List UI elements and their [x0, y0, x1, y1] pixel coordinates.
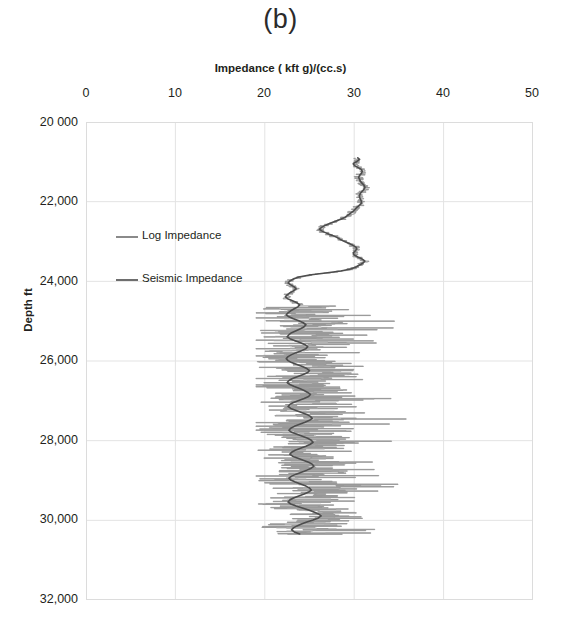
x-axis-title: Impedance ( kft g)/(cc.s) [0, 62, 561, 74]
series-log-impedance [256, 158, 406, 534]
y-axis-title: Depth ft [22, 288, 34, 331]
legend-label-seismic: Seismic Impedance [142, 271, 262, 285]
legend-swatch-seismic [116, 279, 138, 281]
plot-area [86, 122, 533, 600]
legend-label-log: Log Impedance [142, 228, 262, 242]
x-tick-10: 10 [145, 86, 205, 100]
x-tick-50: 50 [502, 86, 561, 100]
legend-swatch-log [116, 236, 138, 238]
y-tick-30000: 30,000 [18, 512, 78, 526]
y-tick-26000: 26,000 [18, 353, 78, 367]
chart-canvas [86, 122, 533, 600]
x-tick-30: 30 [324, 86, 384, 100]
x-tick-40: 40 [413, 86, 473, 100]
impedance-depth-chart: (b) Impedance ( kft g)/(cc.s) Depth ft 0… [0, 0, 561, 626]
page-title: (b) [0, 4, 561, 35]
y-tick-20000: 20 000 [18, 115, 78, 129]
y-tick-28000: 28,000 [18, 433, 78, 447]
x-tick-0: 0 [56, 86, 116, 100]
y-tick-32000: 32,000 [18, 592, 78, 606]
y-tick-22000: 22,000 [18, 194, 78, 208]
y-tick-24000: 24,000 [18, 274, 78, 288]
x-tick-20: 20 [234, 86, 294, 100]
